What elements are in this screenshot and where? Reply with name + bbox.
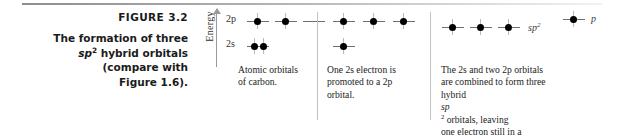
electron-arrow [399, 13, 408, 29]
figure-container: FIGURE 3.2 The formation of three sp2 hy… [0, 0, 626, 139]
panel-caption-atomic-orbitals: Atomic orbitals of carbon. [238, 64, 298, 89]
panel-caption-hybridization: The 2s and two 2p orbitals are combined … [441, 64, 545, 139]
figure-number: FIGURE 3.2 [10, 10, 188, 24]
electron-arrow [250, 38, 259, 54]
panel3-caption-line-1: The 2s and two 2p orbitals [441, 64, 545, 76]
figure-caption: FIGURE 3.2 The formation of three sp2 hy… [10, 10, 188, 89]
orbital-level-label-2s: 2s [226, 38, 235, 49]
orbital-level-label-2p: 2p [226, 13, 236, 24]
panel-divider-1 [317, 12, 318, 120]
electron-arrow [253, 13, 262, 29]
sp2-orbital-label: sp2 [528, 22, 540, 33]
energy-axis: Energy [200, 9, 222, 67]
electron-arrow [504, 19, 513, 35]
electron-arrow [259, 38, 268, 54]
panel1-caption-line-2: of carbon. [238, 76, 298, 88]
panel2-caption-line-1: One 2s electron is [327, 64, 396, 76]
panel3-caption-line-4: one electron still in a [441, 126, 545, 138]
panel2-caption-line-3: orbital. [327, 89, 396, 101]
electron-arrow [339, 38, 348, 54]
electron-arrow [569, 11, 578, 27]
p-orbital-label: p [591, 13, 596, 24]
top-rule-divider [22, 3, 602, 5]
panel2-caption-line-2: promoted to a 2p [327, 76, 396, 88]
electron-arrow [476, 19, 485, 35]
orbital-slot-2p-3-empty [303, 21, 325, 22]
panel1-caption-line-1: Atomic orbitals [238, 64, 298, 76]
electron-arrow [281, 13, 290, 29]
energy-axis-label: Energy [204, 4, 215, 50]
panel-caption-promotion: One 2s electron is promoted to a 2p orbi… [327, 64, 396, 101]
panel-divider-2 [430, 12, 431, 120]
caption-line-3: (compare with [10, 60, 188, 75]
electron-arrow [369, 13, 378, 29]
caption-line-4: Figure 1.6). [10, 75, 188, 90]
electron-arrow [448, 19, 457, 35]
panel3-caption-line-3: hybrid sp2 orbitals, leaving [441, 89, 545, 126]
panel3-caption-line-5: p orbital. [441, 138, 545, 139]
panel3-caption-line-2: are combined to form three [441, 76, 545, 88]
figure-caption-text: The formation of three sp2 hybrid orbita… [10, 31, 188, 89]
axis-line [216, 9, 217, 67]
caption-line-1: The formation of three [10, 31, 188, 46]
electron-arrow [339, 13, 348, 29]
caption-line-2: sp2 hybrid orbitals [10, 46, 188, 61]
